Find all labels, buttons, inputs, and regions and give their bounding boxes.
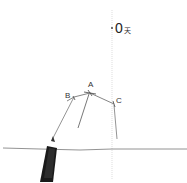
horizontal-ground-line	[3, 148, 187, 150]
line-from-c	[114, 105, 117, 139]
point-label-c: C	[116, 97, 122, 105]
line-from-b	[53, 97, 74, 138]
top-label-number: 0	[115, 21, 123, 35]
top-label-char: 天	[124, 27, 131, 34]
point-label-b: B	[65, 92, 70, 100]
top-dot	[111, 27, 113, 29]
sketch-canvas: 0 天 A B C	[0, 0, 187, 183]
line-from-a	[78, 94, 89, 128]
pen-icon	[40, 136, 57, 182]
point-label-a: A	[88, 81, 93, 89]
geometry-drawing	[0, 0, 187, 183]
